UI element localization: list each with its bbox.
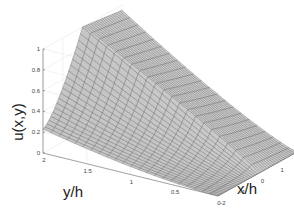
surface-plot: 00.20.40.60.8100.511.52-2-1012 u(x,y) y/…: [0, 0, 294, 213]
surface-mesh: [43, 10, 294, 196]
svg-text:2: 2: [42, 157, 46, 163]
svg-text:1: 1: [281, 167, 285, 173]
svg-text:0.4: 0.4: [32, 108, 41, 114]
svg-text:0.2: 0.2: [32, 129, 41, 135]
svg-text:-2: -2: [220, 200, 226, 206]
svg-text:1.5: 1.5: [84, 168, 93, 174]
y-axis-label: y/h: [63, 183, 83, 200]
z-axis-label: u(x,y): [9, 103, 26, 141]
svg-text:0.5: 0.5: [171, 189, 180, 195]
svg-text:0: 0: [261, 178, 265, 184]
svg-text:0.6: 0.6: [32, 88, 41, 94]
svg-text:1: 1: [130, 179, 134, 185]
svg-text:0.8: 0.8: [32, 67, 41, 73]
x-axis-label: x/h: [237, 180, 257, 197]
svg-text:0: 0: [37, 150, 41, 156]
svg-text:1: 1: [37, 46, 41, 52]
